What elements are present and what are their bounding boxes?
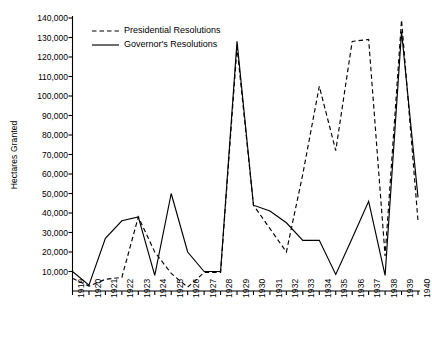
y-axis-tick-label: 70,000 [42,150,68,159]
x-axis-tick-label: 1920 [93,279,103,298]
x-axis-tick-label: 1932 [290,279,300,298]
x-axis-tick-label: 1936 [356,279,366,298]
y-axis-tick-label: 130,000 [37,33,68,42]
x-axis-tick-label: 1921 [109,279,119,298]
y-axis-tick-label: 100,000 [37,92,68,101]
data-series [73,20,419,287]
x-axis-tick-label: 1933 [306,279,316,298]
y-axis-tick-label: 50,000 [42,189,68,198]
x-axis-tick-label: 1935 [339,279,349,298]
legend-swatches [92,31,119,45]
x-axis-tick-label: 1939 [405,279,415,298]
y-axis-tick-label: 90,000 [42,111,68,120]
y-axis-tick-label: 80,000 [42,131,68,140]
series-line-governors [73,32,419,286]
x-axis-tick-label: 1926 [191,279,201,298]
y-axis-tick-label: 20,000 [42,248,68,257]
x-axis-tick-label: 1927 [208,279,218,298]
x-axis-tick-label: 1929 [241,279,251,298]
legend-label: Governor's Resolutions [124,39,217,49]
y-axis-tick-label: 60,000 [42,170,68,179]
x-axis-tick-label: 1922 [125,279,135,298]
x-axis-tick-label: 1919 [76,279,86,298]
x-axis-tick-label: 1924 [158,279,168,298]
x-axis-tick-label: 1937 [372,279,382,298]
y-axis-tick-label: 120,000 [37,53,68,62]
y-axis-tick-label: 40,000 [42,209,68,218]
y-axis-tick-label: 10,000 [42,267,68,276]
x-axis-tick-label: 1923 [142,279,152,298]
x-axis-tick-label: 1938 [389,279,399,298]
y-axis-tick-label: 30,000 [42,228,68,237]
x-axis-tick-label: 1930 [257,279,267,298]
x-axis-tick-label: 1934 [323,279,333,298]
y-axis-tick-label: 110,000 [38,72,68,81]
x-axis-tick-label: 1928 [224,279,234,298]
legend-label: Presidential Resolutions [124,25,221,35]
x-axis-tick-label: 1925 [175,279,185,298]
y-axis-tick-label: 140,000 [37,14,68,23]
axes [69,16,421,295]
x-axis-tick-label: 1931 [274,279,284,298]
y-axis-tick-labels: 10,00020,00030,00040,00050,00060,00070,0… [0,0,68,338]
x-axis-tick-label: 1940 [422,279,432,298]
series-line-presidential [73,20,419,287]
